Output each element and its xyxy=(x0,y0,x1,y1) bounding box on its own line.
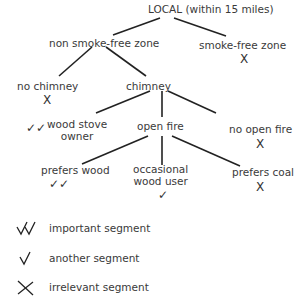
node-non-smoke-free-zone: non smoke-free zone xyxy=(49,37,159,49)
cross-icon: X xyxy=(240,53,248,65)
node-no-chimney: no chimney xyxy=(17,80,78,92)
node-label-line1: occasional xyxy=(133,163,188,175)
node-open-fire: open fire xyxy=(137,120,184,132)
legend-important: important segment xyxy=(49,222,150,234)
node-prefers-wood: prefers wood xyxy=(41,164,110,176)
node-occasional-wood-user: occasional wood user xyxy=(133,163,188,187)
legend-another: another segment xyxy=(49,252,139,264)
node-label-line2: wood user xyxy=(133,175,188,187)
node-chimney: chimney xyxy=(126,80,171,92)
cross-icon: X xyxy=(256,138,264,150)
node-smoke-free-zone: smoke-free zone xyxy=(199,39,286,51)
legend-symbols xyxy=(17,222,35,295)
double-check-icon: ✓✓ xyxy=(26,122,46,134)
check-icon: ✓ xyxy=(158,189,168,201)
node-wood-stove-owner: wood stove owner xyxy=(47,118,107,142)
cross-icon: X xyxy=(256,181,264,193)
node-root: LOCAL (within 15 miles) xyxy=(148,3,274,15)
node-no-open-fire: no open fire xyxy=(229,123,292,135)
double-check-icon: ✓✓ xyxy=(49,178,69,190)
node-prefers-coal: prefers coal xyxy=(232,166,294,178)
cross-icon: X xyxy=(43,94,51,106)
node-label-line2: owner xyxy=(47,130,107,142)
legend-irrelevant: irrelevant segment xyxy=(49,281,149,293)
node-label-line1: wood stove xyxy=(47,118,107,130)
